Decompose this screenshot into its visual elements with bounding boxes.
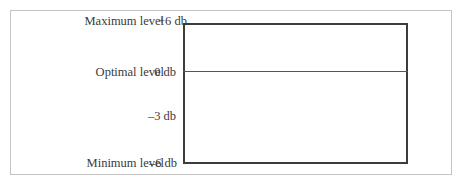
optimal-level-line [183, 71, 408, 72]
minimum-level-db: –6 db [149, 156, 177, 170]
minus-3-db: –3 db [148, 109, 176, 123]
optimal-level-db: 0 db [154, 65, 176, 79]
maximum-level-db: +6 db [158, 14, 187, 28]
level-range-box [183, 23, 408, 164]
maximum-level-label: Maximum level [85, 14, 165, 28]
